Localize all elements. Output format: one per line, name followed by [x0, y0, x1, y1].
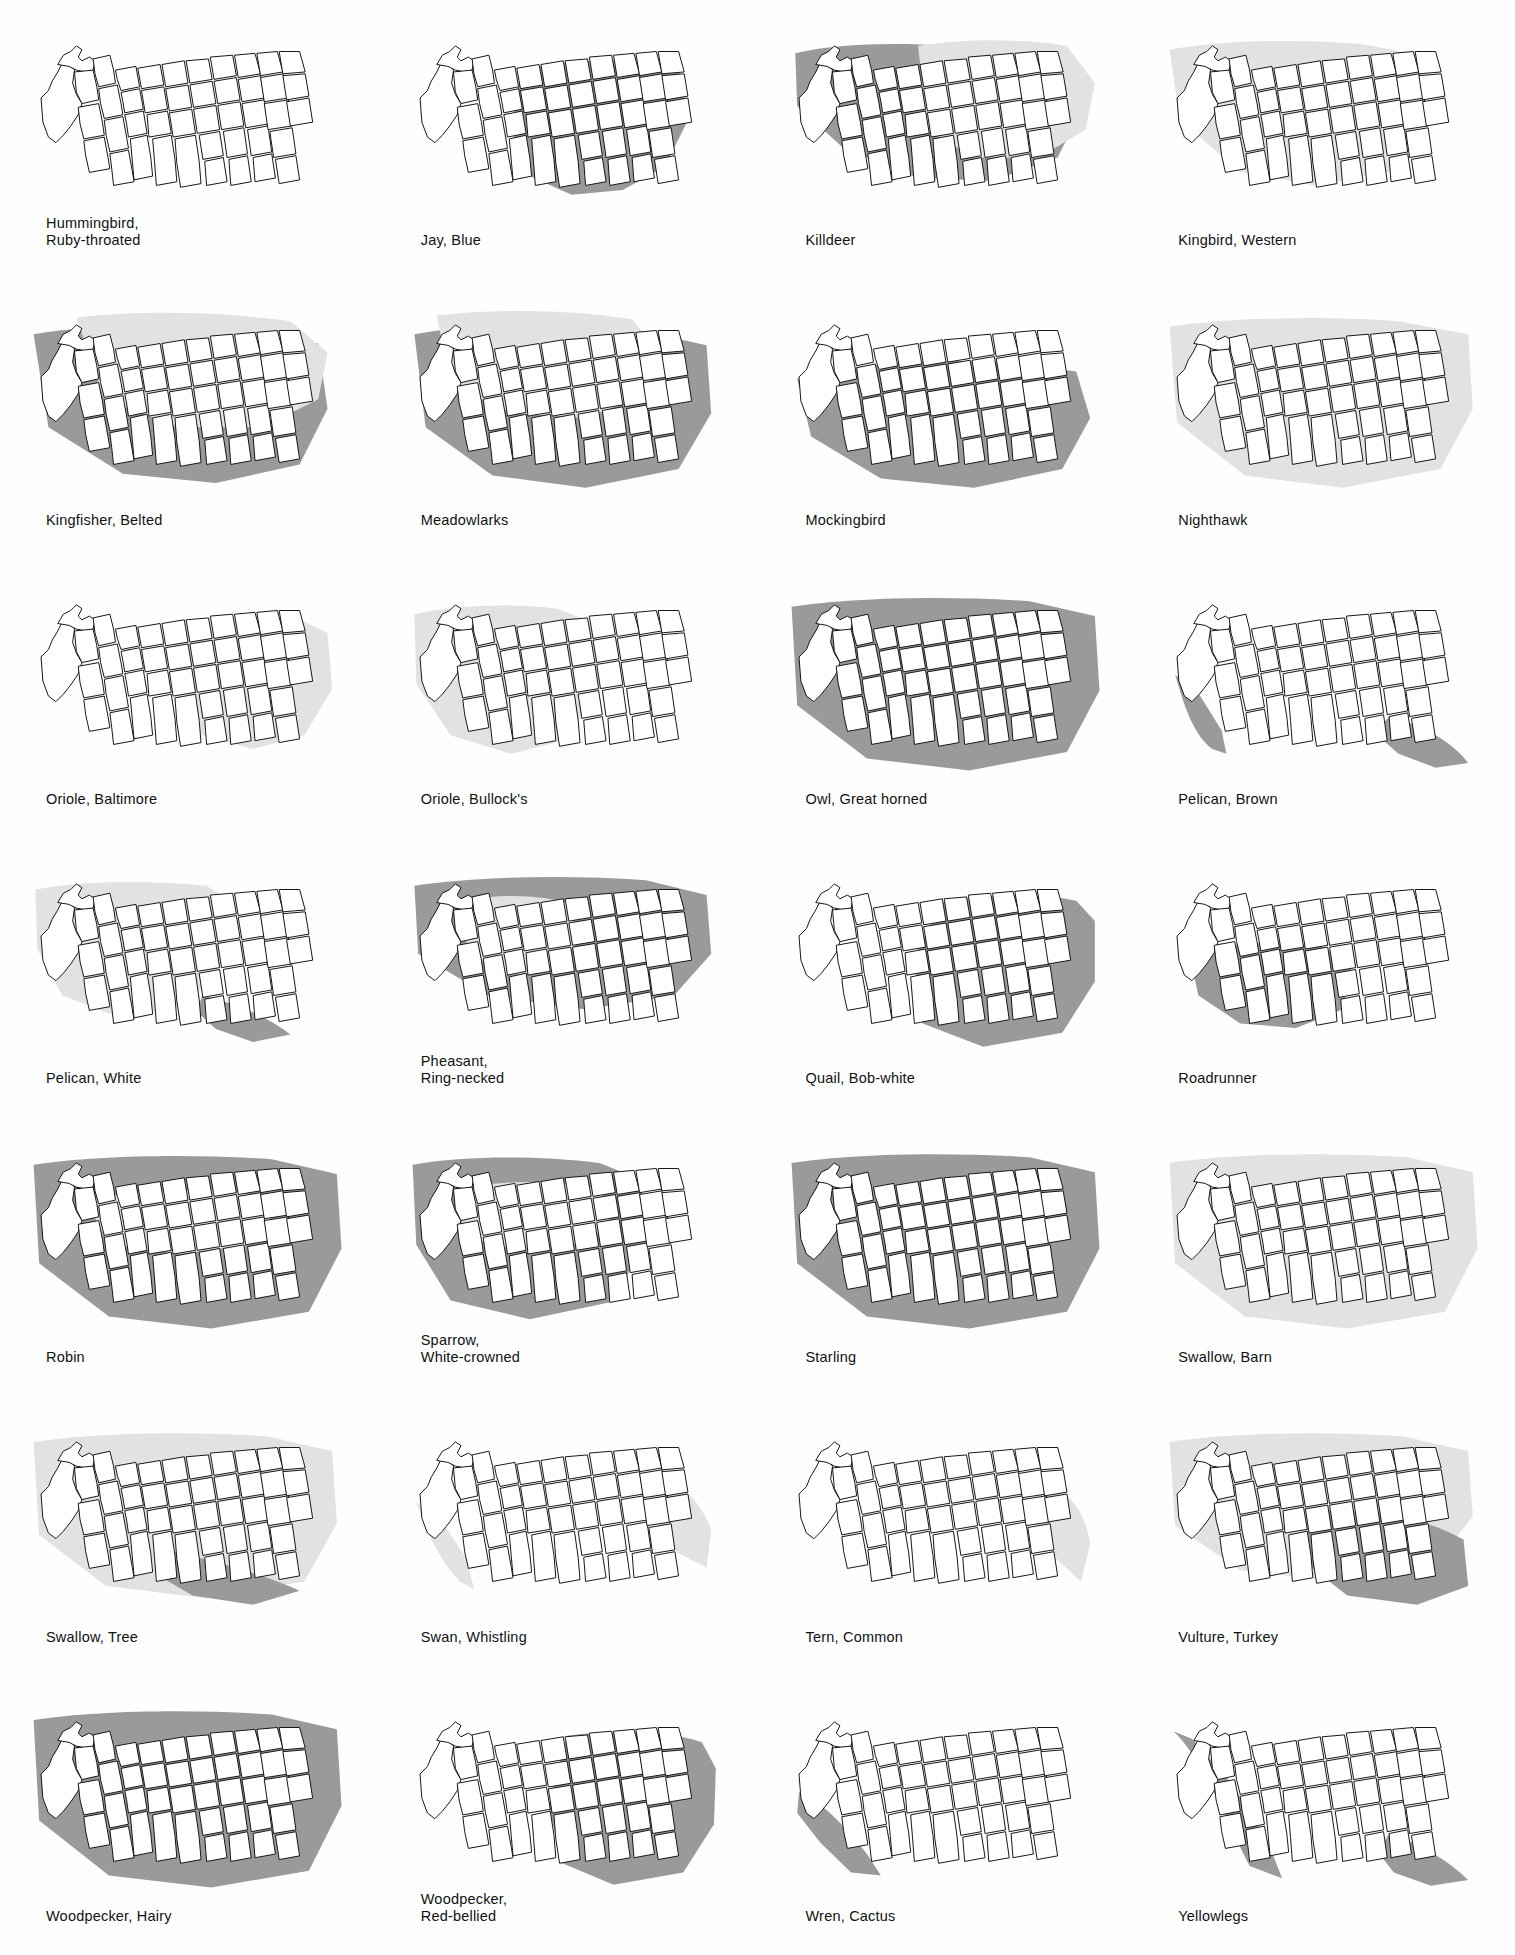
state-shape [257, 610, 283, 634]
state-shape [972, 636, 998, 662]
state-shape [1326, 1757, 1352, 1783]
state-shape [248, 405, 272, 435]
state-shape [130, 135, 152, 180]
state-shape [190, 361, 216, 387]
state-shape [583, 1275, 605, 1303]
map-caption: Oriole, Baltimore [0, 791, 379, 808]
us-map-svg [1144, 856, 1504, 1056]
state-shape [986, 1552, 1008, 1582]
state-shape [1044, 657, 1070, 685]
state-shape [121, 647, 143, 671]
state-shape [1261, 111, 1283, 137]
state-shape [951, 385, 977, 413]
state-shape [1393, 889, 1419, 913]
state-shape [483, 117, 507, 152]
state-shape [1011, 154, 1033, 182]
state-shape [608, 1552, 630, 1582]
state-shape [210, 1452, 236, 1476]
state-shape [1335, 969, 1359, 997]
state-shape [1374, 1193, 1400, 1219]
range-map-jay-blue [387, 18, 747, 218]
state-shape [905, 670, 929, 696]
state-shape [1347, 1731, 1373, 1755]
state-shape [658, 1727, 684, 1749]
state-shape [199, 1528, 223, 1556]
state-shape [910, 1811, 934, 1861]
state-shape [899, 1763, 925, 1789]
state-shape [248, 685, 272, 715]
state-shape [121, 1206, 143, 1230]
range-map-starling [766, 1135, 1126, 1335]
state-shape [1298, 619, 1324, 645]
state-shape [500, 927, 522, 951]
state-shape [975, 381, 1001, 409]
state-shape [520, 1483, 546, 1509]
state-shape [1252, 1742, 1276, 1766]
state-shape [986, 1831, 1008, 1861]
state-shape [962, 1275, 984, 1303]
state-shape [1044, 1774, 1070, 1802]
state-shape [477, 1761, 501, 1794]
state-shape [593, 636, 619, 662]
state-shape [99, 644, 123, 677]
state-shape [138, 623, 164, 647]
state-shape [662, 1191, 688, 1217]
state-shape [218, 381, 244, 409]
state-shape [1335, 1807, 1359, 1835]
state-shape [1005, 685, 1029, 715]
state-shape [1360, 1804, 1384, 1834]
state-shape [229, 1552, 251, 1582]
state-shape [287, 1215, 313, 1243]
state-shape [919, 1457, 945, 1483]
us-map-svg [8, 1694, 368, 1894]
state-shape [981, 407, 1005, 437]
state-shape [1335, 1249, 1359, 1277]
state-shape [996, 634, 1022, 660]
state-shape [597, 381, 623, 409]
caption-line-1: Pelican, White [46, 1070, 141, 1086]
map-caption: Sparrow,White-crowned [379, 1332, 758, 1366]
state-shape [879, 89, 901, 113]
state-shape [1005, 1522, 1029, 1552]
state-shape [223, 407, 247, 437]
state-shape [235, 53, 261, 77]
map-cell: Robin [0, 1117, 379, 1396]
state-shape [125, 111, 147, 137]
state-shape [649, 1524, 675, 1554]
state-shape [882, 1787, 904, 1813]
us-map-svg [8, 18, 368, 218]
state-shape [626, 405, 650, 435]
state-shape [1033, 1273, 1057, 1301]
state-shape [186, 59, 212, 83]
state-shape [1257, 1485, 1279, 1509]
map-caption: Kingfisher, Belted [0, 512, 379, 529]
state-shape [957, 411, 981, 439]
state-shape [1229, 1731, 1251, 1763]
state-shape [986, 994, 1008, 1024]
state-shape [968, 1172, 994, 1196]
state-shape [895, 623, 921, 647]
state-shape [463, 1534, 489, 1569]
state-shape [569, 919, 595, 945]
state-shape [548, 388, 574, 416]
state-shape [919, 1737, 945, 1763]
state-shape [1415, 610, 1441, 632]
state-shape [287, 377, 313, 405]
map-cell: Swallow, Tree [0, 1396, 379, 1675]
map-caption: Wren, Cactus [758, 1908, 1137, 1925]
state-shape [138, 902, 164, 926]
state-shape [626, 1522, 650, 1552]
state-shape [975, 1778, 1001, 1806]
state-shape [1302, 364, 1328, 390]
state-shape [879, 368, 901, 392]
state-shape [1326, 919, 1352, 945]
state-shape [205, 437, 227, 465]
us-map-svg [766, 577, 1126, 777]
state-shape [147, 1508, 171, 1534]
state-shape [862, 954, 886, 989]
state-shape [517, 623, 543, 647]
state-shape [238, 1751, 264, 1777]
state-shape [283, 1191, 309, 1217]
state-shape [1412, 714, 1436, 742]
map-cell: Quail, Bob-white [758, 838, 1137, 1117]
